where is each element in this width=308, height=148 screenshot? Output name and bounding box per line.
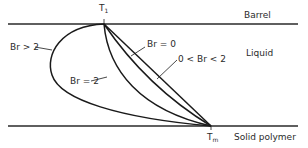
br-eq-2-label: Br = 2 xyxy=(70,76,99,86)
br-gt-2-label: Br > 2 xyxy=(10,42,39,52)
liquid-label: Liquid xyxy=(246,48,273,58)
tm-label: Tm xyxy=(206,132,219,143)
br-eq-0-label: Br = 0 xyxy=(147,39,176,49)
leader-br-between xyxy=(157,60,177,79)
temperature-profile-diagram: T1 Tm Barrel Liquid Solid polymer Br > 2… xyxy=(0,0,308,148)
solid-polymer-label: Solid polymer xyxy=(234,132,296,142)
t1-label: T1 xyxy=(98,3,109,14)
br-between-label: 0 < Br < 2 xyxy=(178,54,226,64)
barrel-label: Barrel xyxy=(244,10,271,20)
diagram-canvas: T1 Tm Barrel Liquid Solid polymer Br > 2… xyxy=(0,0,308,148)
